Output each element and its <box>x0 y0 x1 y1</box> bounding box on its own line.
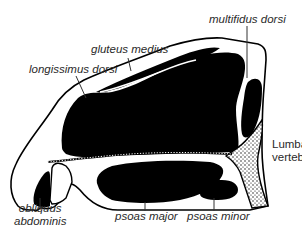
label-obliquus-abdominis: obliquus abdominis <box>14 202 66 228</box>
label-longissimus-dorsi: longissimus dorsi <box>29 63 117 76</box>
label-obliquus-line1: obliquus <box>14 202 66 215</box>
label-lumbar-line2: vertebra <box>272 151 302 164</box>
label-gluteus-medius: gluteus medius <box>91 43 168 56</box>
flank-flap-outline <box>50 163 72 204</box>
label-lumbar-vertebra: Lumbar vertebra <box>272 138 302 164</box>
label-obliquus-line2: abdominis <box>14 215 66 228</box>
loin-cross-section-diagram: gluteus medius longissimus dorsi multifi… <box>0 0 302 237</box>
label-multifidus-dorsi: multifidus dorsi <box>209 13 286 26</box>
label-psoas-minor: psoas minor <box>187 210 250 223</box>
label-lumbar-line1: Lumbar <box>272 138 302 151</box>
label-psoas-major: psoas major <box>115 210 178 223</box>
